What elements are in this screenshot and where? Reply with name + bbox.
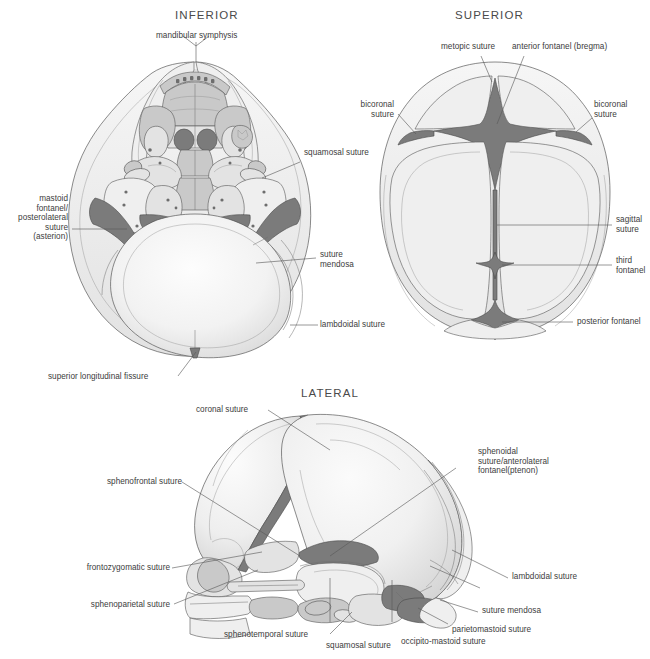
label-mastoid-fontanel: mastoid fontanel/ posterolateral suture … bbox=[4, 194, 68, 242]
label-suture-mendosa: suture mendosa bbox=[320, 250, 354, 269]
lateral-skull-drawing bbox=[172, 410, 508, 639]
view-title-superior: SUPERIOR bbox=[455, 9, 524, 21]
label-third-fontanel: third fontanel bbox=[616, 256, 645, 275]
label-sphenofrontal-suture: sphenofrontal suture bbox=[86, 477, 182, 487]
label-sphenoidal-suture: sphenoidal suture/anterolateral fontanel… bbox=[478, 447, 549, 476]
label-superior-longitudinal-fissure: superior longitudinal fissure bbox=[48, 372, 148, 382]
label-mandibular-symphysis: mandibular symphysis bbox=[156, 31, 237, 41]
label-lambdoidal-suture: lambdoidal suture bbox=[320, 320, 385, 330]
view-title-lateral: LATERAL bbox=[301, 387, 359, 399]
label-suture-mendosa-lateral: suture mendosa bbox=[482, 606, 541, 616]
label-metopic-suture: metopic suture bbox=[441, 42, 495, 52]
label-anterior-fontanel: anterior fontanel (bregma) bbox=[512, 42, 607, 52]
label-sphenoparietal-suture: sphenoparietal suture bbox=[64, 600, 170, 610]
label-bicoronal-suture-right: bicoronal suture bbox=[594, 100, 627, 119]
label-parietomastoid-suture: parietomastoid suture bbox=[452, 625, 531, 635]
label-squamosal-suture-lateral: squamosal suture bbox=[326, 641, 391, 651]
label-sphenotemporal-suture: sphenotemporal suture bbox=[224, 630, 308, 640]
inferior-skull-drawing bbox=[69, 36, 318, 376]
label-bicoronal-suture-left: bicoronal suture bbox=[338, 100, 394, 119]
label-sagittal-suture: sagittal suture bbox=[616, 215, 642, 234]
label-frontozygomatic-suture: frontozygomatic suture bbox=[58, 563, 170, 573]
view-title-inferior: INFERIOR bbox=[175, 9, 239, 21]
label-coronal-suture: coronal suture bbox=[196, 405, 248, 415]
label-squamosal-suture: squamosal suture bbox=[304, 148, 369, 158]
figure-canvas: INFERIOR mandibular symphysis squamosal … bbox=[0, 0, 650, 659]
label-occipito-mastoid-suture: occipito-mastoid suture bbox=[401, 637, 486, 647]
superior-skull-drawing bbox=[380, 56, 612, 340]
label-posterior-fontanel: posterior fontanel bbox=[577, 317, 641, 327]
label-lambdoidal-suture-lateral: lambdoidal suture bbox=[512, 572, 577, 582]
